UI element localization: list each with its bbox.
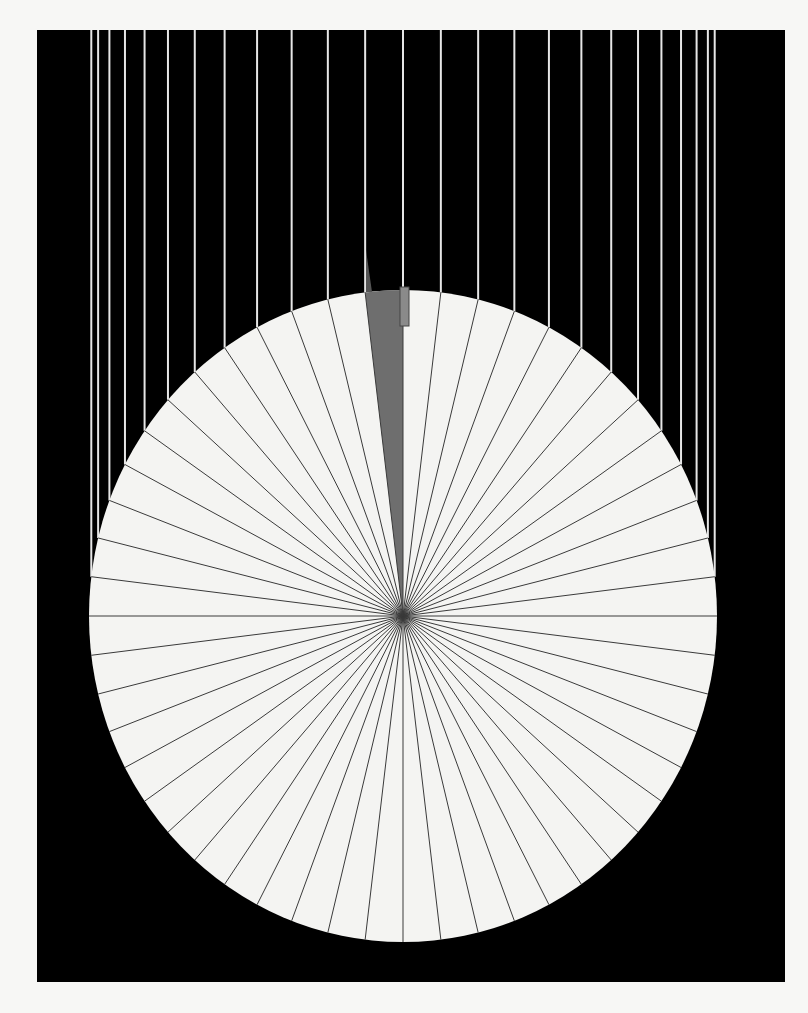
- top-marker: [400, 287, 409, 326]
- artwork-canvas: [0, 0, 808, 1013]
